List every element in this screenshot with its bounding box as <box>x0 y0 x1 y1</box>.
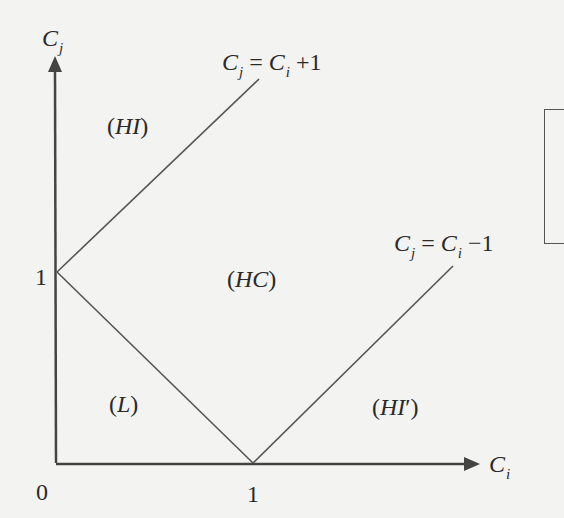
region-hi-label: (HI) <box>107 114 148 138</box>
eq-lower-lhs: C <box>394 230 410 256</box>
paren-open: ( <box>372 394 380 420</box>
paren-close: ) <box>411 394 419 420</box>
region-hi-prime-label: (HI′) <box>372 395 419 419</box>
paren-close: ) <box>140 113 148 139</box>
x-axis-label-sub: i <box>506 466 510 482</box>
region-l-label: (L) <box>109 392 138 416</box>
y-tick-1-label: 1 <box>35 265 47 289</box>
region-name: L <box>117 391 130 417</box>
eq-lower-lhs-sub: j <box>411 245 415 261</box>
paren-close: ) <box>268 266 276 292</box>
eq-upper-lhs: C <box>222 49 238 75</box>
eq-upper-rhs: C <box>269 49 285 75</box>
cropped-legend-box <box>544 109 564 244</box>
eq-upper-equals: = <box>243 49 269 75</box>
eq-upper-tail: +1 <box>290 49 322 75</box>
y-axis <box>55 70 56 463</box>
upper-line-equation: Cj = Ci +1 <box>222 50 321 74</box>
eq-lower-rhs-sub: i <box>458 245 462 261</box>
eq-lower-rhs: C <box>441 230 457 256</box>
region-name: HC <box>235 266 268 292</box>
region-hc-label: (HC) <box>227 267 276 291</box>
paren-close: ) <box>130 391 138 417</box>
line-cj-eq-ci-minus-1 <box>253 266 453 463</box>
x-axis-label: Ci <box>489 452 510 476</box>
y-axis-label: Cj <box>42 26 63 50</box>
y-axis-label-main: C <box>42 25 58 51</box>
paren-open: ( <box>109 391 117 417</box>
x-tick-1-label: 1 <box>247 482 259 506</box>
x-axis-arrow-icon <box>464 457 480 471</box>
eq-lower-equals: = <box>415 230 441 256</box>
region-name: HI <box>115 113 140 139</box>
eq-lower-tail: −1 <box>462 230 494 256</box>
region-name: HI <box>380 394 405 420</box>
origin-tick-label: 0 <box>36 480 48 504</box>
lower-line-equation: Cj = Ci −1 <box>394 231 493 255</box>
eq-upper-lhs-sub: j <box>239 64 243 80</box>
y-axis-arrow-icon <box>48 56 62 72</box>
line-ci-plus-cj-eq-1 <box>57 272 253 463</box>
y-axis-label-sub: j <box>59 40 63 56</box>
line-cj-eq-ci-plus-1 <box>57 79 259 272</box>
paren-open: ( <box>227 266 235 292</box>
x-axis-label-main: C <box>489 451 505 477</box>
paren-open: ( <box>107 113 115 139</box>
eq-upper-rhs-sub: i <box>286 64 290 80</box>
